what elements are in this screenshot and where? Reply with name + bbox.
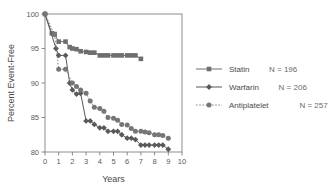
series-antiplatelet [43, 12, 171, 141]
data-point-marker [106, 115, 111, 120]
data-point-marker [206, 84, 212, 90]
data-point-marker [111, 53, 116, 58]
x-tick-label: 6 [125, 157, 129, 166]
data-point-marker [78, 49, 83, 54]
data-point-marker [166, 136, 171, 141]
x-tick-label: 5 [111, 157, 115, 166]
x-tick-label: 1 [57, 157, 61, 166]
legend-sample-size: N = 196 [269, 65, 298, 74]
data-point-marker [133, 53, 138, 58]
data-point-marker [92, 50, 97, 55]
data-point-marker [84, 91, 89, 96]
series-warfarin [42, 11, 171, 152]
data-point-marker [129, 126, 134, 131]
data-point-marker [97, 106, 102, 111]
legend-entry-statin[interactable]: StatinN = 196 [196, 65, 298, 74]
legend-sample-size: N = 257 [299, 101, 328, 110]
data-point-marker [63, 39, 68, 44]
x-tick-label: 3 [84, 157, 88, 166]
data-point-marker [63, 53, 69, 59]
data-point-marker [160, 133, 165, 138]
data-point-marker [207, 67, 212, 72]
legend-label: Antiplatelet [229, 101, 269, 110]
x-tick-label: 8 [153, 157, 157, 166]
data-point-marker [92, 105, 97, 110]
x-tick-label: 7 [139, 157, 143, 166]
chart-canvas: 80859095100012345678910YearsPercent Even… [0, 0, 334, 192]
data-point-marker [88, 50, 93, 55]
legend-entry-antiplatelet[interactable]: AntiplateletN = 257 [196, 101, 328, 110]
data-point-marker [115, 53, 120, 58]
legend-entry-warfarin[interactable]: WarfarinN = 206 [196, 83, 307, 92]
x-tick-label: 9 [166, 157, 170, 166]
data-point-marker [125, 123, 130, 128]
data-point-marker [119, 53, 124, 58]
data-point-marker [207, 103, 212, 108]
data-point-marker [133, 129, 138, 134]
data-point-marker [70, 46, 75, 51]
y-tick-label: 90 [31, 79, 39, 88]
data-point-marker [106, 53, 111, 58]
data-point-marker [78, 87, 83, 92]
series-line [45, 14, 168, 149]
data-point-marker [129, 53, 134, 58]
data-point-marker [125, 53, 130, 58]
data-point-marker [102, 53, 107, 58]
kaplan-meier-chart: 80859095100012345678910YearsPercent Even… [0, 0, 334, 192]
x-tick-label: 2 [70, 157, 74, 166]
data-point-marker [74, 84, 79, 89]
data-point-marker [147, 130, 152, 135]
legend-label: Statin [229, 65, 249, 74]
y-tick-label: 85 [31, 113, 39, 122]
x-tick-label: 10 [178, 157, 186, 166]
x-tick-label: 0 [43, 157, 47, 166]
data-point-marker [74, 47, 79, 52]
legend-sample-size: N = 206 [279, 83, 308, 92]
legend-label: Warfarin [229, 83, 259, 92]
data-point-marker [43, 12, 48, 17]
y-tick-label: 80 [31, 148, 39, 157]
x-axis-title: Years [102, 174, 125, 184]
data-point-marker [139, 57, 144, 62]
y-tick-label: 95 [31, 44, 39, 53]
x-tick-label: 4 [98, 157, 102, 166]
data-point-marker [101, 109, 106, 114]
data-point-marker [56, 53, 62, 59]
y-tick-label: 100 [26, 10, 39, 19]
data-point-marker [84, 50, 89, 55]
data-point-marker [63, 67, 68, 72]
data-point-marker [70, 81, 75, 86]
data-point-marker [88, 98, 93, 103]
data-point-marker [115, 118, 120, 123]
data-point-marker [56, 67, 61, 72]
data-point-marker [146, 142, 152, 148]
y-axis-title: Percent Event-Free [6, 44, 16, 122]
data-point-marker [52, 32, 57, 37]
data-point-marker [56, 39, 61, 44]
data-point-marker [98, 53, 103, 58]
data-point-marker [119, 122, 124, 127]
